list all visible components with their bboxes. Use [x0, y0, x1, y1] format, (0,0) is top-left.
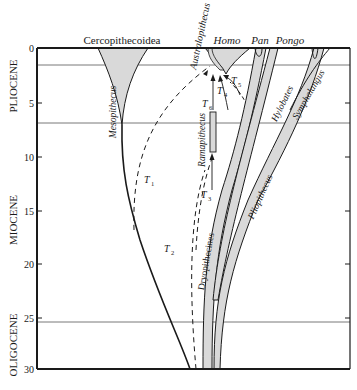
tick-25: 25 [24, 313, 34, 324]
tick-20: 20 [24, 259, 34, 270]
t3-label: T 3 [201, 189, 211, 202]
label-homo: Homo [213, 34, 241, 46]
epoch-oligocene: OLIGOCENE [7, 313, 19, 376]
tick-10: 10 [24, 152, 34, 163]
svg-text:5: 5 [238, 81, 241, 88]
t6-label: T 6 [202, 98, 213, 111]
mesopithecus-stem [122, 125, 190, 369]
svg-text:T: T [201, 189, 208, 200]
svg-text:3: 3 [208, 195, 211, 202]
svg-text:6: 6 [209, 104, 213, 111]
svg-text:T: T [164, 243, 171, 254]
t1-label: T 1 [144, 174, 154, 187]
svg-text:1: 1 [151, 180, 154, 187]
ramapithecus-lineage [210, 112, 216, 152]
label-mesopithecus: Mesopithecus [108, 86, 118, 140]
label-ramapithecus: Ramapithecus [197, 113, 207, 168]
svg-text:T: T [144, 174, 151, 185]
y-axis-ticks [37, 103, 350, 318]
t5-label: T 5 [231, 75, 241, 88]
svg-text:4: 4 [224, 91, 228, 98]
t2-label: T 2 [164, 243, 174, 256]
epoch-miocene: MIOCENE [7, 195, 19, 245]
tick-5: 5 [29, 98, 34, 109]
y-axis-labels: 0 5 10 15 20 25 30 [24, 43, 34, 375]
tick-15: 15 [24, 206, 34, 217]
label-australopithecus: Australopithecus [187, 2, 212, 72]
label-pongo: Pongo [275, 34, 305, 46]
t4-label: T 4 [217, 85, 228, 98]
svg-text:T: T [231, 75, 238, 86]
cercopithecoidea-lineage [98, 48, 148, 125]
svg-text:T: T [202, 98, 209, 109]
label-pan: Pan [250, 34, 269, 46]
tick-0: 0 [29, 43, 34, 54]
tick-30: 30 [24, 364, 34, 375]
epoch-pliocene: PLIOCENE [7, 59, 19, 112]
svg-text:2: 2 [171, 249, 174, 256]
phylogeny-diagram: 0 5 10 15 20 25 30 PLIOCENE MIOCENE OLIG… [0, 0, 357, 390]
label-cercopithecoidea: Cercopithecoidea [84, 34, 161, 46]
